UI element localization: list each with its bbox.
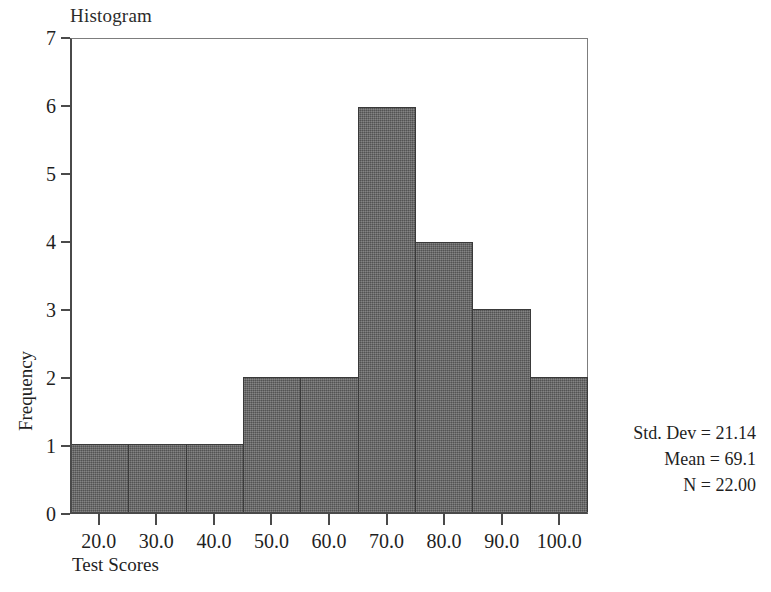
n-text: N = 22.00 xyxy=(600,472,756,498)
y-tick-mark xyxy=(61,37,70,39)
y-tick-mark xyxy=(61,445,70,447)
histogram-bar xyxy=(243,377,301,512)
x-tick-label: 100.0 xyxy=(519,528,599,554)
y-tick-mark xyxy=(61,377,70,379)
y-tick-mark xyxy=(61,173,70,175)
x-tick-mark xyxy=(155,514,157,525)
mean-text: Mean = 69.1 xyxy=(600,446,756,472)
y-tick-label: 6 xyxy=(46,93,56,119)
x-tick-mark xyxy=(270,514,272,525)
y-tick-label: 7 xyxy=(46,25,56,51)
y-tick-mark xyxy=(61,309,70,311)
histogram-bar xyxy=(472,309,530,512)
y-tick-mark xyxy=(61,513,70,515)
y-tick-label: 0 xyxy=(46,501,56,527)
histogram-bar xyxy=(415,242,473,512)
histogram-chart: Histogram Frequency 01234567 20.030.040.… xyxy=(0,0,771,592)
histogram-bar xyxy=(530,377,588,512)
y-tick-label: 2 xyxy=(46,365,56,391)
y-tick-mark xyxy=(61,241,70,243)
y-tick-label: 4 xyxy=(46,229,56,255)
std-dev-text: Std. Dev = 21.14 xyxy=(600,420,756,446)
x-tick-mark xyxy=(98,514,100,525)
x-tick-mark xyxy=(443,514,445,525)
y-tick-label: 5 xyxy=(46,161,56,187)
plot-area xyxy=(70,38,588,514)
y-tick-label: 1 xyxy=(46,433,56,459)
statistics-block: Std. Dev = 21.14 Mean = 69.1 N = 22.00 xyxy=(600,420,756,498)
histogram-bar xyxy=(186,444,244,512)
x-tick-mark xyxy=(328,514,330,525)
x-axis-title: Test Scores xyxy=(72,553,159,577)
y-axis-title: Frequency xyxy=(15,321,37,461)
chart-title: Histogram xyxy=(70,4,152,28)
x-tick-mark xyxy=(213,514,215,525)
histogram-bar xyxy=(358,107,416,512)
y-tick-label: 3 xyxy=(46,297,56,323)
y-tick-mark xyxy=(61,105,70,107)
x-tick-mark xyxy=(386,514,388,525)
x-tick-mark xyxy=(558,514,560,525)
histogram-bars xyxy=(72,39,587,512)
histogram-bar xyxy=(72,444,129,512)
histogram-bar xyxy=(300,377,358,512)
histogram-bar xyxy=(128,444,186,512)
x-tick-mark xyxy=(501,514,503,525)
